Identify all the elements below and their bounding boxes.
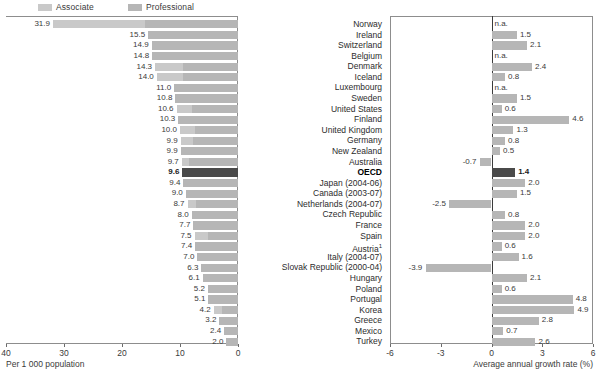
right-axis-title: Average annual growth rate (%) bbox=[473, 359, 593, 369]
axis-tick bbox=[6, 344, 7, 347]
axis-tick-label: 30 bbox=[59, 348, 68, 358]
axis-tick-label: -6 bbox=[386, 348, 394, 358]
axis-tick bbox=[122, 344, 123, 347]
axis-tick bbox=[64, 344, 65, 347]
left-x-axis: 403020100 Per 1 000 population bbox=[6, 344, 238, 362]
legend-item-associate: Associate bbox=[38, 2, 94, 12]
legend-label-associate: Associate bbox=[56, 2, 94, 12]
chart-nurses-growth-rate: n.a.1.52.1n.a.2.40.8n.a.1.50.64.61.30.80… bbox=[390, 16, 593, 344]
axis-tick bbox=[238, 344, 239, 347]
axis-tick-label: -3 bbox=[437, 348, 445, 358]
right-x-axis: -6-3036 Average annual growth rate (%) bbox=[390, 344, 593, 362]
legend: Associate Professional bbox=[0, 0, 250, 16]
axis-tick-label: 3 bbox=[540, 348, 545, 358]
axis-tick-label: 0 bbox=[236, 348, 241, 358]
legend-label-professional: Professional bbox=[146, 2, 194, 12]
legend-swatch-professional bbox=[128, 4, 142, 11]
left-axis-title: Per 1 000 population bbox=[6, 359, 84, 369]
chart-page: Associate Professional 31.915.514.914.81… bbox=[0, 0, 599, 383]
country-label-column: NorwayIrelandSwitzerlandBelgiumDenmarkIc… bbox=[244, 16, 386, 344]
axis-tick bbox=[441, 344, 442, 347]
chart-nurses-per-1000: 31.915.514.914.814.314.011.010.810.610.3… bbox=[6, 16, 238, 344]
axis-tick bbox=[390, 344, 391, 347]
legend-swatch-associate bbox=[38, 4, 52, 11]
axis-tick-label: 20 bbox=[117, 348, 126, 358]
axis-tick-label: 10 bbox=[175, 348, 184, 358]
axis-tick bbox=[542, 344, 543, 347]
axis-tick bbox=[180, 344, 181, 347]
axis-tick-label: 0 bbox=[489, 348, 494, 358]
axis-tick-label: 6 bbox=[591, 348, 596, 358]
legend-item-professional: Professional bbox=[128, 2, 194, 12]
axis-tick bbox=[492, 344, 493, 347]
axis-tick bbox=[593, 344, 594, 347]
axis-tick-label: 40 bbox=[1, 348, 10, 358]
country-label: Turkey bbox=[356, 333, 382, 350]
